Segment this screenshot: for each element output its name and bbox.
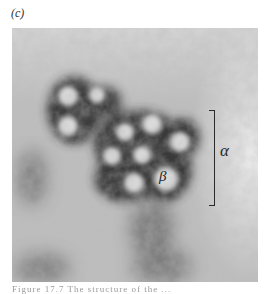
alpha-label: α: [220, 141, 229, 161]
alpha-bracket: [209, 110, 215, 206]
beta-label: β: [159, 168, 166, 185]
electron-micrograph: α β: [12, 28, 258, 282]
panel-label: (c): [11, 6, 24, 21]
figure-caption: Figure 17.7 The structure of the ...: [12, 284, 171, 294]
